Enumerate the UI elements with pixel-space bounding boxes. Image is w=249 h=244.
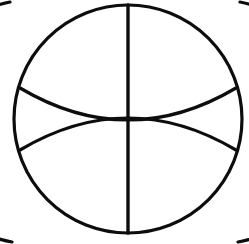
figure-canvas bbox=[0, 0, 249, 244]
left-side-arc bbox=[0, 2, 12, 242]
construction-diagram bbox=[0, 0, 249, 244]
